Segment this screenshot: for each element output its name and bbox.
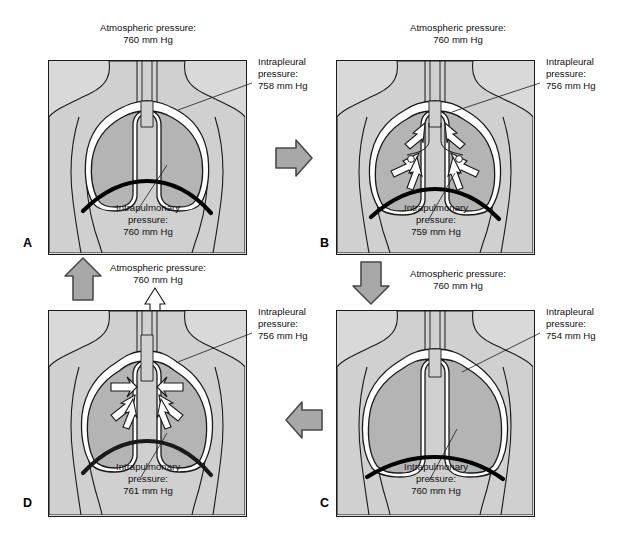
- panel-d-intrapleural-label-line1: Intrapleural: [258, 306, 344, 318]
- panel-d-intrapleural-label-line2: pressure:: [258, 318, 344, 330]
- panel-b-atmospheric-value: 760 mm Hg: [388, 34, 528, 46]
- panel-b-letter: B: [320, 236, 329, 250]
- panel-d-intrapleural-value: 756 mm Hg: [258, 330, 344, 342]
- panel-d-letter: D: [23, 496, 32, 510]
- panel-d-intrapulmonary-label-line2: pressure:: [88, 473, 208, 485]
- panel-d-atmospheric-label-line1: Atmospheric pressure:: [88, 262, 228, 274]
- panel-b-intrapleural-value: 756 mm Hg: [546, 80, 632, 92]
- panel-a-intrapulmonary-value: 760 mm Hg: [88, 226, 208, 238]
- panel-b-intrapleural-label-line1: Intrapleural: [546, 56, 632, 68]
- panel-d-intrapulmonary-value: 761 mm Hg: [88, 485, 208, 497]
- panel-a-intrapulmonary-label-line2: pressure:: [88, 214, 208, 226]
- panel-c-letter: C: [320, 496, 329, 510]
- panel-b-intrapleural-label-line2: pressure:: [546, 68, 632, 80]
- panel-b-intrapulmonary-label-line2: pressure:: [376, 214, 496, 226]
- panel-d-atmospheric-value: 760 mm Hg: [88, 274, 228, 286]
- panel-c-intrapleural-label-line2: pressure:: [546, 318, 632, 330]
- panel-a-atmospheric-value: 760 mm Hg: [78, 34, 218, 46]
- arrow-b-to-c-icon: [353, 262, 389, 304]
- panel-c-intrapleural-value: 754 mm Hg: [546, 330, 632, 342]
- arrow-c-to-d-icon: [286, 402, 322, 438]
- panel-c-intrapulmonary-label-line1: Intrapulmonary: [376, 461, 496, 473]
- panel-d-intrapulmonary-label-line1: Intrapulmonary: [88, 461, 208, 473]
- panel-a-intrapleural-label-line2: pressure:: [258, 68, 338, 80]
- panel-c-intrapulmonary-label-line2: pressure:: [376, 473, 496, 485]
- arrow-a-to-b-icon: [276, 140, 312, 176]
- panel-a-atmospheric-label-line1: Atmospheric pressure:: [78, 22, 218, 34]
- panel-a-intrapulmonary-label-line1: Intrapulmonary: [88, 202, 208, 214]
- panel-b-atmospheric-label-line1: Atmospheric pressure:: [388, 22, 528, 34]
- figure-canvas: Atmospheric pressure: 760 mm Hg: [0, 0, 639, 536]
- panel-c-intrapulmonary-value: 760 mm Hg: [376, 485, 496, 497]
- panel-a-letter: A: [23, 236, 32, 250]
- panel-c-atmospheric-value: 760 mm Hg: [388, 280, 528, 292]
- panel-c-atmospheric-label-line1: Atmospheric pressure:: [388, 268, 528, 280]
- panel-b-intrapulmonary-value: 759 mm Hg: [376, 226, 496, 238]
- panel-b-intrapulmonary-label-line1: Intrapulmonary: [376, 202, 496, 214]
- panel-c-intrapleural-label-line1: Intrapleural: [546, 306, 632, 318]
- panel-a-intrapleural-value: 758 mm Hg: [258, 80, 338, 92]
- panel-a-intrapleural-label-line1: Intrapleural: [258, 56, 338, 68]
